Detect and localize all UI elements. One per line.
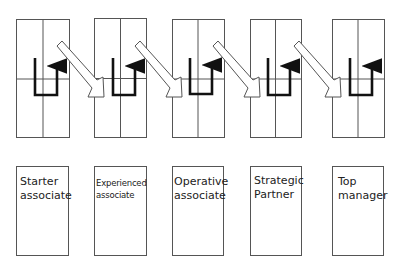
transition-arrow-icon-2	[135, 41, 182, 97]
grid-box-1	[17, 20, 70, 138]
stage-label-line-1: Operative	[174, 175, 228, 189]
stage-label-line-1: Starter	[20, 175, 72, 189]
u-turn-arrow-icon-5	[350, 58, 372, 95]
stage-label-line-2: associate	[174, 189, 228, 203]
u-turn-arrow-icon-1	[35, 58, 57, 95]
stage-label-line-1: Experienced	[96, 177, 147, 189]
transition-arrow-icon-3	[213, 41, 260, 97]
stage-label-line-2: manager	[338, 189, 387, 203]
stage-label-line-2: Partner	[254, 188, 304, 202]
stage-label: Experienced associate	[96, 177, 147, 201]
stage-box-starter-associate: Starter associate	[16, 166, 69, 256]
stage-label-line-2: associate	[20, 189, 72, 203]
stage-label: Strategic Partner	[254, 174, 304, 202]
stage-label: Operative associate	[174, 175, 228, 203]
stage-box-experienced-associate: Experienced associate	[94, 166, 147, 256]
transition-arrow-icon-1	[57, 41, 104, 97]
stage-label: Top manager	[338, 175, 387, 203]
stage-label: Starter associate	[20, 175, 72, 203]
u-turn-arrow-icon-3	[190, 58, 212, 94]
stage-label-line-1: Top	[338, 175, 387, 189]
u-turn-arrow-icon-2	[113, 58, 135, 95]
stage-label-line-2: associate	[96, 189, 147, 201]
stage-box-top-manager: Top manager	[332, 166, 384, 256]
stage-box-strategic-partner: Strategic Partner	[250, 166, 302, 256]
u-turn-arrow-icon-4	[268, 58, 290, 95]
stage-box-operative-associate: Operative associate	[172, 166, 224, 256]
stage-label-line-1: Strategic	[254, 174, 304, 188]
